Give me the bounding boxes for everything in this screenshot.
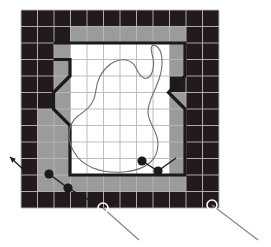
grid-cell-r9-c3 xyxy=(71,159,88,176)
grid-cell-r4-c8 xyxy=(153,76,170,93)
grid-cell-r6-c1 xyxy=(38,109,55,126)
grid-cell-r7-c7 xyxy=(137,126,154,143)
grid-cell-r4-c6 xyxy=(120,76,137,93)
grid-cell-r5-c5 xyxy=(104,93,121,110)
waypoint-2[interactable] xyxy=(63,183,72,192)
grid-cell-r9-c2 xyxy=(54,159,71,176)
grid-cell-r1-c7 xyxy=(137,27,154,44)
grid-cell-r10-c11 xyxy=(203,175,220,192)
grid-cell-r2-c7 xyxy=(137,43,154,60)
grid-cell-r6-c0 xyxy=(21,109,38,126)
grid-cell-r4-c4 xyxy=(87,76,104,93)
grid-cell-r3-c10 xyxy=(186,60,203,77)
grid-cell-r2-c11 xyxy=(203,43,220,60)
grid-cell-r7-c1 xyxy=(38,126,55,143)
grid-cell-r9-c10 xyxy=(186,159,203,176)
grid-cell-r0-c7 xyxy=(137,10,154,27)
grid-cell-r3-c6 xyxy=(120,60,137,77)
grid-cell-r1-c10 xyxy=(186,27,203,44)
grid-cell-r7-c3 xyxy=(71,126,88,143)
grid-cell-r0-c4 xyxy=(87,10,104,27)
grid-cell-r8-c1 xyxy=(38,142,55,159)
grid-cell-r5-c10 xyxy=(186,93,203,110)
grid-cell-r1-c4 xyxy=(87,27,104,44)
grid-cell-r0-c3 xyxy=(71,10,88,27)
grid-cell-r6-c4 xyxy=(87,109,104,126)
grid-cell-r8-c5 xyxy=(104,142,121,159)
grid-cell-r2-c3 xyxy=(71,43,88,60)
grid-cell-r11-c8 xyxy=(153,192,170,209)
grid-cell-r11-c7 xyxy=(137,192,154,209)
grid-cell-r0-c1 xyxy=(38,10,55,27)
grid-cell-r10-c4 xyxy=(87,175,104,192)
grid-cell-r5-c11 xyxy=(203,93,220,110)
grid-cell-r0-c5 xyxy=(104,10,121,27)
grid-cell-r8-c7 xyxy=(137,142,154,159)
grid-cell-r10-c6 xyxy=(120,175,137,192)
grid-cell-r11-c6 xyxy=(120,192,137,209)
grid-cell-r2-c0 xyxy=(21,43,38,60)
grid-cell-r6-c6 xyxy=(120,109,137,126)
grid-cell-r4-c3 xyxy=(71,76,88,93)
grid-cell-r7-c6 xyxy=(120,126,137,143)
grid-cell-r1-c11 xyxy=(203,27,220,44)
grid-map-figure xyxy=(0,0,271,247)
grid-cell-r8-c6 xyxy=(120,142,137,159)
grid-cell-r8-c0 xyxy=(21,142,38,159)
grid-cell-r11-c10 xyxy=(186,192,203,209)
grid-cell-r5-c3 xyxy=(71,93,88,110)
grid-cell-r11-c9 xyxy=(170,192,187,209)
grid-cell-r1-c0 xyxy=(21,27,38,44)
waypoint-4[interactable] xyxy=(153,166,162,175)
grid-cell-r5-c1 xyxy=(38,93,55,110)
grid-cell-r3-c1 xyxy=(38,60,55,77)
grid-cell-r2-c4 xyxy=(87,43,104,60)
grid-cell-r5-c0 xyxy=(21,93,38,110)
grid-cell-r11-c1 xyxy=(38,192,55,209)
grid-cell-r3-c11 xyxy=(203,60,220,77)
grid-cell-r1-c2 xyxy=(54,27,71,44)
grid-cell-r10-c9 xyxy=(170,175,187,192)
grid-cell-r2-c2 xyxy=(54,43,71,60)
grid-cell-r4-c5 xyxy=(104,76,121,93)
grid-map-canvas xyxy=(0,0,271,247)
grid-cell-r0-c8 xyxy=(153,10,170,27)
grid-cell-r10-c3 xyxy=(71,175,88,192)
grid-cell-r6-c8 xyxy=(153,109,170,126)
grid-cell-r5-c8 xyxy=(153,93,170,110)
grid-cell-r10-c0 xyxy=(21,175,38,192)
grid-cell-r2-c1 xyxy=(38,43,55,60)
grid-cell-r10-c7 xyxy=(137,175,154,192)
grid-cell-r2-c10 xyxy=(186,43,203,60)
grid-cell-r2-c5 xyxy=(104,43,121,60)
grid-cell-r7-c5 xyxy=(104,126,121,143)
grid-cell-r8-c11 xyxy=(203,142,220,159)
grid-cell-r3-c3 xyxy=(71,60,88,77)
grid-cell-r4-c0 xyxy=(21,76,38,93)
waypoint-3[interactable] xyxy=(137,156,146,165)
grid-cell-r10-c8 xyxy=(153,175,170,192)
grid-cell-r5-c6 xyxy=(120,93,137,110)
grid-cell-r8-c2 xyxy=(54,142,71,159)
grid-cell-r1-c9 xyxy=(170,27,187,44)
grid-cell-r4-c1 xyxy=(38,76,55,93)
grid-cell-r9-c0 xyxy=(21,159,38,176)
grid-cell-r7-c2 xyxy=(54,126,71,143)
grid-cell-r7-c10 xyxy=(186,126,203,143)
grid-cell-r5-c2 xyxy=(54,93,71,110)
grid-cell-r4-c10 xyxy=(186,76,203,93)
grid-cell-r0-c11 xyxy=(203,10,220,27)
grid-cell-r0-c2 xyxy=(54,10,71,27)
grid-cell-r4-c11 xyxy=(203,76,220,93)
grid-cell-r11-c0 xyxy=(21,192,38,209)
grid-cell-r11-c2 xyxy=(54,192,71,209)
grid-cell-r11-c5 xyxy=(104,192,121,209)
grid-cell-r3-c2 xyxy=(54,60,71,77)
grid-cell-r1-c8 xyxy=(153,27,170,44)
grid-cell-r1-c1 xyxy=(38,27,55,44)
grid-cell-r0-c9 xyxy=(170,10,187,27)
grid-cell-r6-c10 xyxy=(186,109,203,126)
waypoint-1[interactable] xyxy=(44,169,53,178)
grid-cell-r6-c11 xyxy=(203,109,220,126)
grid-cell-r0-c0 xyxy=(21,10,38,27)
